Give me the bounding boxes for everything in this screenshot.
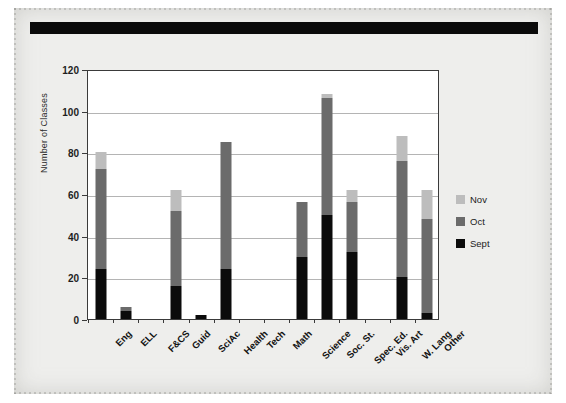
x-axis-label: ELL xyxy=(138,328,158,348)
y-tick-label: 80 xyxy=(31,148,79,159)
bar-segment-nov[interactable] xyxy=(422,190,433,219)
x-axis-label: Guid xyxy=(189,328,212,351)
bar-segment-oct[interactable] xyxy=(397,161,408,278)
legend-label: Nov xyxy=(470,194,487,205)
stacked-bar[interactable] xyxy=(170,190,181,319)
bar-segment-nov[interactable] xyxy=(397,136,408,161)
bar-slot[interactable] xyxy=(289,71,314,319)
legend-swatch-icon xyxy=(456,239,465,248)
bar-slot[interactable] xyxy=(138,71,163,319)
bar-slot[interactable] xyxy=(113,71,138,319)
bar-segment-sept[interactable] xyxy=(321,215,332,319)
bar-slot[interactable] xyxy=(390,71,415,319)
x-tick-mark xyxy=(390,319,391,323)
x-tick-mark xyxy=(113,319,114,323)
bar-slot[interactable] xyxy=(214,71,239,319)
y-tick-label: 120 xyxy=(31,65,79,76)
x-axis-label: SciAc xyxy=(216,328,242,354)
x-tick-mark xyxy=(214,319,215,323)
stacked-bar[interactable] xyxy=(321,94,332,319)
x-tick-mark xyxy=(339,319,340,323)
legend-label: Sept xyxy=(470,238,490,249)
stacked-bar[interactable] xyxy=(346,190,357,319)
x-axis-label: F&CS xyxy=(165,328,191,354)
legend-item-nov[interactable]: Nov xyxy=(456,188,536,210)
x-tick-mark xyxy=(239,319,240,323)
bar-segment-sept[interactable] xyxy=(422,313,433,319)
x-tick-mark xyxy=(314,319,315,323)
bar-segment-nov[interactable] xyxy=(346,190,357,203)
chart-legend: NovOctSept xyxy=(456,188,536,254)
bar-slot[interactable] xyxy=(415,71,440,319)
legend-item-sept[interactable]: Sept xyxy=(456,232,536,254)
x-tick-mark xyxy=(163,319,164,323)
bar-slot[interactable] xyxy=(339,71,364,319)
y-tick-mark xyxy=(82,70,87,71)
stacked-bar[interactable] xyxy=(196,315,207,319)
bar-slot[interactable] xyxy=(239,71,264,319)
bar-slot[interactable] xyxy=(264,71,289,319)
legend-swatch-icon xyxy=(456,217,465,226)
bar-segment-oct[interactable] xyxy=(170,211,181,286)
bar-slot[interactable] xyxy=(163,71,188,319)
bar-slot[interactable] xyxy=(88,71,113,319)
bar-segment-oct[interactable] xyxy=(221,142,232,269)
bar-slot[interactable] xyxy=(365,71,390,319)
bar-segment-sept[interactable] xyxy=(221,269,232,319)
x-tick-mark xyxy=(88,319,89,323)
stacked-bar[interactable] xyxy=(221,142,232,319)
y-tick-label: 0 xyxy=(31,315,79,326)
bar-slot[interactable] xyxy=(189,71,214,319)
x-tick-mark xyxy=(289,319,290,323)
y-tick-label: 100 xyxy=(31,106,79,117)
bar-segment-sept[interactable] xyxy=(296,257,307,320)
y-tick-mark xyxy=(82,278,87,279)
legend-swatch-icon xyxy=(456,195,465,204)
y-tick-mark xyxy=(82,153,87,154)
stacked-bar[interactable] xyxy=(422,190,433,319)
x-tick-mark xyxy=(189,319,190,323)
bar-segment-oct[interactable] xyxy=(296,202,307,256)
y-tick-label: 60 xyxy=(31,190,79,201)
bar-segment-oct[interactable] xyxy=(95,169,106,269)
bar-segment-nov[interactable] xyxy=(170,190,181,211)
scanned-page: Number of Classes 120100806040200 EngELL… xyxy=(14,8,552,394)
y-axis-title: Number of Classes xyxy=(39,63,49,203)
legend-item-oct[interactable]: Oct xyxy=(456,210,536,232)
stacked-bar[interactable] xyxy=(397,136,408,319)
bar-segment-sept[interactable] xyxy=(196,315,207,319)
bar-slot[interactable] xyxy=(314,71,339,319)
bar-segment-sept[interactable] xyxy=(95,269,106,319)
x-axis-label: Tech xyxy=(265,328,288,351)
x-tick-mark xyxy=(365,319,366,323)
bar-segment-sept[interactable] xyxy=(120,311,131,319)
bar-segment-oct[interactable] xyxy=(422,219,433,313)
x-axis-label: Math xyxy=(290,328,313,351)
bar-series-group xyxy=(88,71,438,319)
y-tick-mark xyxy=(82,112,87,113)
x-axis-label: Eng xyxy=(113,328,133,348)
bar-segment-sept[interactable] xyxy=(170,286,181,319)
x-tick-mark xyxy=(264,319,265,323)
legend-label: Oct xyxy=(470,216,485,227)
bar-segment-sept[interactable] xyxy=(397,277,408,319)
y-tick-mark xyxy=(82,237,87,238)
y-tick-label: 20 xyxy=(31,273,79,284)
y-tick-label: 40 xyxy=(31,231,79,242)
plot-area xyxy=(87,70,439,320)
stacked-bar-chart: Number of Classes 120100806040200 EngELL… xyxy=(14,8,552,394)
stacked-bar[interactable] xyxy=(296,202,307,319)
x-tick-mark xyxy=(138,319,139,323)
bar-segment-oct[interactable] xyxy=(346,202,357,252)
y-tick-mark xyxy=(82,195,87,196)
bar-segment-nov[interactable] xyxy=(95,152,106,169)
y-tick-mark xyxy=(82,320,87,321)
bar-segment-oct[interactable] xyxy=(321,98,332,215)
x-tick-mark xyxy=(415,319,416,323)
bar-segment-sept[interactable] xyxy=(346,252,357,319)
stacked-bar[interactable] xyxy=(95,152,106,319)
stacked-bar[interactable] xyxy=(120,307,131,319)
